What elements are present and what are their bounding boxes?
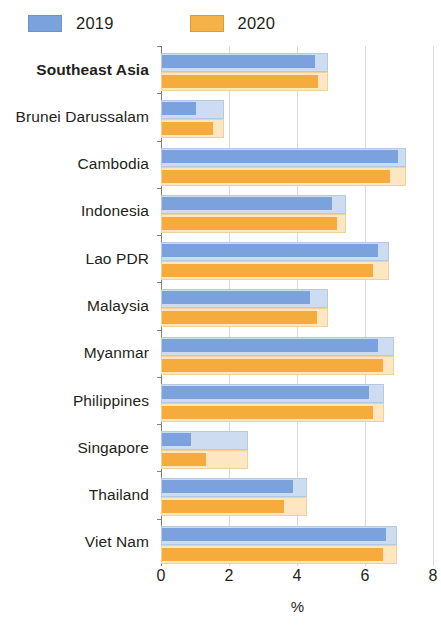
x-tick-label: 0: [157, 567, 166, 585]
bar-blue[interactable]: [162, 528, 386, 541]
category-axis: Southeast AsiaBrunei DarussalamCambodiaI…: [0, 46, 155, 566]
bar-orange[interactable]: [162, 75, 318, 88]
bar-orange[interactable]: [162, 500, 284, 513]
legend-label-2020: 2020: [238, 14, 276, 33]
bar-blue[interactable]: [162, 291, 310, 304]
bar-group[interactable]: [161, 282, 434, 329]
bar-group[interactable]: [161, 235, 434, 282]
chart-legend: 2019 2020: [0, 0, 434, 46]
bar-orange[interactable]: [162, 217, 337, 230]
plot-area: [161, 46, 434, 566]
bar-blue[interactable]: [162, 433, 191, 446]
bar-group[interactable]: [161, 188, 434, 235]
x-axis-title: %: [161, 598, 434, 615]
category-label: Singapore: [77, 439, 149, 457]
bar-group[interactable]: [161, 471, 434, 518]
bar-blue[interactable]: [162, 244, 378, 257]
bar-group[interactable]: [161, 93, 434, 140]
bar-blue[interactable]: [162, 386, 369, 399]
bar-blue[interactable]: [162, 102, 196, 115]
bar-orange[interactable]: [162, 406, 373, 419]
bar-blue[interactable]: [162, 150, 398, 163]
legend-entry-2019: 2019: [28, 14, 114, 33]
category-label: Malaysia: [87, 297, 149, 315]
category-label: Indonesia: [81, 202, 149, 220]
bar-orange[interactable]: [162, 264, 373, 277]
legend-entry-2020: 2020: [190, 14, 276, 33]
category-label: Cambodia: [78, 155, 149, 173]
legend-swatch-2020-icon: [190, 15, 224, 32]
legend-label-2019: 2019: [76, 14, 114, 33]
bar-orange[interactable]: [162, 453, 206, 466]
bar-blue[interactable]: [162, 55, 315, 68]
bar-orange[interactable]: [162, 359, 383, 372]
category-label: Viet Nam: [85, 533, 149, 551]
category-label: Philippines: [73, 392, 149, 410]
bar-group[interactable]: [161, 46, 434, 93]
bar-group[interactable]: [161, 330, 434, 377]
bar-orange[interactable]: [162, 548, 383, 561]
bar-group[interactable]: [161, 377, 434, 424]
bar-orange[interactable]: [162, 122, 213, 135]
x-tick-label: 6: [361, 567, 370, 585]
bar-blue[interactable]: [162, 480, 293, 493]
value-axis-ticks: 02468: [161, 567, 441, 595]
bar-orange[interactable]: [162, 311, 317, 324]
legend-swatch-2019-icon: [28, 15, 62, 32]
x-tick-label: 2: [225, 567, 234, 585]
category-label: Myanmar: [84, 344, 149, 362]
x-tick-label: 8: [429, 567, 438, 585]
category-label: Southeast Asia: [36, 61, 149, 79]
bar-group[interactable]: [161, 424, 434, 471]
bar-group[interactable]: [161, 519, 434, 566]
bar-blue[interactable]: [162, 197, 332, 210]
category-label: Brunei Darussalam: [15, 108, 149, 126]
bar-group[interactable]: [161, 141, 434, 188]
bar-blue[interactable]: [162, 339, 378, 352]
category-label: Lao PDR: [85, 250, 149, 268]
bar-orange[interactable]: [162, 170, 390, 183]
category-label: Thailand: [89, 486, 149, 504]
bar-chart: Southeast AsiaBrunei DarussalamCambodiaI…: [0, 46, 434, 636]
x-tick-label: 4: [293, 567, 302, 585]
